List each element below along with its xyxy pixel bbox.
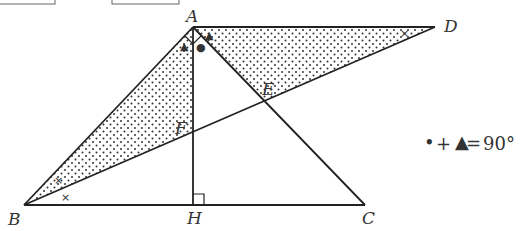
label-D: D	[443, 16, 458, 36]
triangle-mark-BAH: ▲	[180, 40, 189, 53]
svg-text:+: +	[436, 133, 451, 154]
angle-sum-formula: • + ▲ = 90°	[424, 131, 515, 154]
label-H: H	[186, 208, 203, 228]
svg-text:=: =	[466, 133, 481, 154]
label-E: E	[261, 79, 275, 99]
dot-mark-HAC: ●	[196, 41, 206, 54]
cross-mark-DBC: ×	[61, 191, 70, 204]
label-A: A	[184, 6, 198, 26]
right-angle-mark-H	[193, 194, 204, 205]
triangle-mark-CAD: ▲	[205, 29, 214, 42]
label-F: F	[174, 118, 188, 138]
label-C: C	[362, 208, 375, 228]
answer-box-1	[0, 0, 55, 4]
geometry-diagram: ▲ ● ▲ × × × A B C D E F H • + ▲ = 90°	[0, 0, 529, 231]
svg-text:90°: 90°	[483, 133, 515, 154]
cross-mark-ADB: ×	[400, 27, 409, 40]
answer-box-2	[112, 0, 179, 4]
label-B: B	[7, 209, 21, 229]
svg-text:•: •	[424, 132, 435, 153]
cross-mark-ABD: ×	[54, 174, 63, 187]
